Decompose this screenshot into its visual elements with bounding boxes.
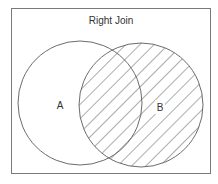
diagram-title: Right Join xyxy=(89,15,133,26)
set-a-label: A xyxy=(57,100,64,111)
set-b-label: B xyxy=(157,102,164,113)
venn-diagram: Right Join A B xyxy=(0,0,218,184)
